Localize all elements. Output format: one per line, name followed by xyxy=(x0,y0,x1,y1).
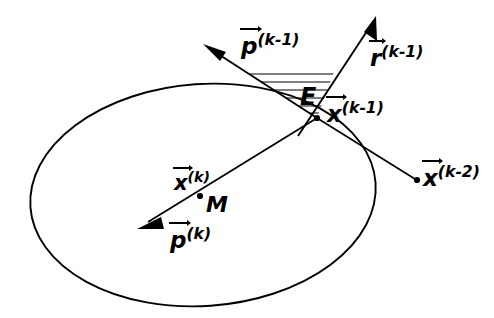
point-x-previous-2 xyxy=(414,177,420,183)
label-r-previous-base: r xyxy=(370,47,381,70)
label-r-previous: r(k-1) xyxy=(370,44,423,70)
label-minimum: M xyxy=(206,192,228,217)
label-x-current-base: x xyxy=(174,173,188,194)
arrowhead-p-current xyxy=(137,217,164,229)
vector-arrow-icon xyxy=(369,40,384,42)
segment-x-prev-to-x-prev2 xyxy=(317,118,415,179)
label-r-previous-superscript: (k-1) xyxy=(381,42,423,61)
label-p-current-base: p xyxy=(170,229,186,252)
diagram-canvas: p(k-1) r(k-1) E x(k-1) x(k-2) x(k) M p(k… xyxy=(0,0,494,318)
label-x-previous-2-superscript: (k-2) xyxy=(438,162,480,181)
label-x-previous-base: x xyxy=(327,103,342,126)
label-x-current: x(k) xyxy=(174,170,210,194)
vector-arrow-icon xyxy=(240,28,260,30)
label-error-region: E xyxy=(300,83,316,111)
vector-arrow-icon xyxy=(169,222,189,224)
label-x-current-superscript: (k) xyxy=(188,169,211,185)
vector-arrow-icon xyxy=(326,96,345,98)
arrowhead-p-previous xyxy=(203,44,226,61)
vector-arrow-icon xyxy=(173,167,191,169)
label-x-previous: x(k-1) xyxy=(327,100,384,126)
label-p-previous-superscript: (k-1) xyxy=(257,30,299,49)
label-p-previous-base: p xyxy=(241,35,257,58)
arrowhead-r-previous xyxy=(364,16,377,41)
label-p-current: p(k) xyxy=(170,226,211,252)
label-x-previous-2: x(k-2) xyxy=(423,164,480,190)
label-p-current-superscript: (k) xyxy=(186,224,211,243)
label-x-previous-2-base: x xyxy=(423,167,438,190)
label-p-previous: p(k-1) xyxy=(241,32,300,58)
point-x-previous xyxy=(314,115,320,121)
vector-arrow-icon xyxy=(422,160,441,162)
label-x-previous-superscript: (k-1) xyxy=(342,98,384,117)
